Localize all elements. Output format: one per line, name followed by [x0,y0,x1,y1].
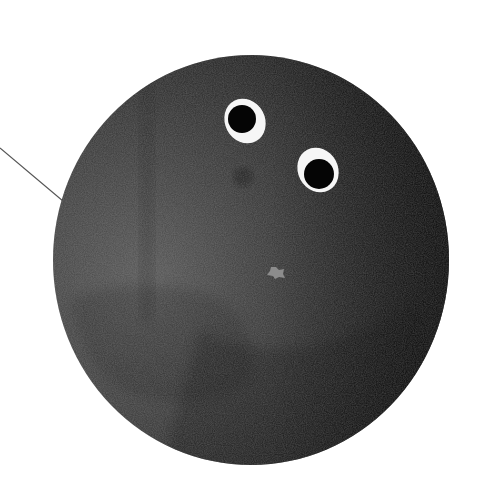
speckle-texture [0,0,489,492]
pupil [228,105,256,133]
ball-illustration [0,0,489,492]
googly-eye-ball-image [0,0,489,492]
sphere [0,0,489,492]
pupil [304,159,334,189]
